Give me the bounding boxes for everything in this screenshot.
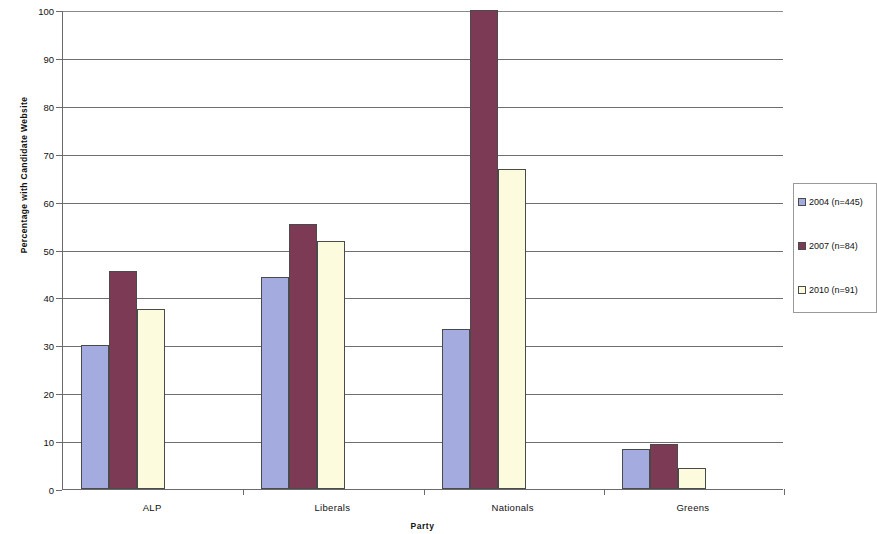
y-tick-label-90: 90 [10,53,54,64]
y-tick-label-60: 60 [10,197,54,208]
legend-swatch-icon-2004 [798,198,806,206]
x-label-liberals: Liberals [242,502,422,513]
x-label-greens: Greens [603,502,783,513]
legend-label-2007: 2007 (n=84) [809,241,858,251]
legend-label-2010: 2010 (n=91) [809,285,858,295]
y-tick-label-100: 100 [10,6,54,17]
x-tick-separator-1 [424,489,425,495]
bar-alp-2010 [137,309,165,489]
gridline-60 [63,203,783,204]
bar-greens-2007 [650,444,678,489]
x-tick-separator-2 [604,489,605,495]
x-tick-separator-3 [784,489,785,495]
gridline-100 [63,11,783,12]
y-tick-label-80: 80 [10,101,54,112]
plot-area [62,11,783,490]
gridline-20 [63,394,783,395]
bar-alp-2004 [81,345,109,489]
y-tick-label-10: 10 [10,437,54,448]
y-tick-label-50: 50 [10,245,54,256]
x-label-alp: ALP [62,502,242,513]
y-axis-tick-labels: 0102030405060708090100 [8,11,54,490]
x-tick-separator-0 [243,489,244,495]
bar-liberals-2010 [317,241,345,489]
bar-chart: Percentage with Candidate Website 010203… [0,0,877,534]
gridline-10 [63,442,783,443]
gridline-30 [63,346,783,347]
legend-item-2010: 2010 (n=91) [798,284,858,296]
bar-greens-2010 [678,468,706,489]
y-tick-label-70: 70 [10,149,54,160]
bar-liberals-2004 [261,277,289,489]
gridline-70 [63,155,783,156]
y-tick-label-40: 40 [10,293,54,304]
legend-label-2004: 2004 (n=445) [809,197,863,207]
bar-nationals-2007 [470,10,498,489]
bar-greens-2004 [622,449,650,489]
x-axis-category-labels: ALPLiberalsNationalsGreens [62,502,783,518]
gridline-90 [63,59,783,60]
bar-alp-2007 [109,271,137,489]
legend-swatch-icon-2007 [798,242,806,250]
chart-legend: 2004 (n=445)2007 (n=84)2010 (n=91) [793,183,877,313]
legend-item-2004: 2004 (n=445) [798,196,863,208]
gridline-50 [63,251,783,252]
gridline-80 [63,107,783,108]
y-tick-label-0: 0 [10,485,54,496]
y-tick-label-30: 30 [10,341,54,352]
y-tick-mark-0 [56,490,62,491]
y-tick-label-20: 20 [10,389,54,400]
legend-swatch-icon-2010 [798,286,806,294]
bar-nationals-2004 [442,329,470,489]
x-label-nationals: Nationals [423,502,603,513]
bar-liberals-2007 [289,224,317,489]
bar-nationals-2010 [498,169,526,489]
gridline-40 [63,298,783,299]
legend-item-2007: 2007 (n=84) [798,240,858,252]
x-axis-title: Party [62,521,783,531]
